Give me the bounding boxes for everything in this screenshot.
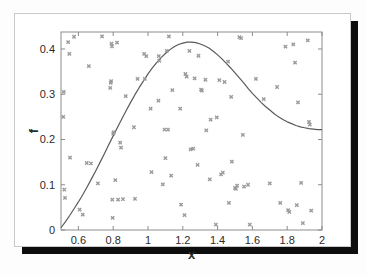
- data-point: [133, 197, 136, 200]
- data-point: [164, 156, 167, 159]
- data-point: [114, 179, 117, 182]
- data-point: [292, 43, 295, 46]
- x-axis-label: x: [188, 247, 196, 262]
- y-tick-label: 0.1: [40, 179, 55, 191]
- data-point: [293, 61, 296, 64]
- data-point: [63, 188, 66, 191]
- data-point: [193, 77, 196, 80]
- data-point: [296, 101, 299, 104]
- scatter-plot: 0.60.811.21.41.61.82 00.10.20.30.4 x f: [0, 0, 367, 275]
- data-point: [171, 89, 174, 92]
- x-tick-label: 0.8: [106, 234, 121, 246]
- data-point: [109, 86, 112, 89]
- data-points: [62, 35, 313, 227]
- data-point: [275, 85, 278, 88]
- data-point: [205, 129, 208, 132]
- x-tick-label: 1.8: [280, 234, 295, 246]
- x-tick-label: 1.2: [175, 234, 190, 246]
- data-point: [132, 126, 135, 129]
- data-point: [208, 178, 211, 181]
- data-point: [121, 198, 124, 201]
- data-point: [163, 128, 166, 131]
- data-point: [299, 181, 302, 184]
- data-point: [310, 209, 313, 212]
- data-point: [295, 203, 298, 206]
- data-point: [221, 171, 224, 174]
- data-point: [157, 55, 160, 58]
- data-point: [85, 161, 88, 164]
- data-point: [230, 95, 233, 98]
- y-tick-label: 0: [49, 224, 55, 236]
- data-point: [161, 183, 164, 186]
- data-point: [223, 80, 226, 83]
- data-point: [62, 115, 65, 118]
- data-point: [209, 118, 212, 121]
- y-tick-label: 0.4: [40, 43, 55, 55]
- data-point: [116, 198, 119, 201]
- curve-path: [61, 42, 322, 228]
- data-point: [227, 201, 230, 204]
- data-point: [306, 39, 309, 42]
- data-point: [119, 146, 122, 149]
- data-point: [111, 198, 114, 201]
- data-point: [119, 141, 122, 144]
- envelope-curve: [61, 42, 322, 228]
- data-point: [63, 196, 66, 199]
- data-point: [149, 107, 152, 110]
- data-point: [124, 94, 127, 97]
- data-point: [279, 201, 282, 204]
- x-tick-label: 1.4: [210, 234, 225, 246]
- figure-root: 0.60.811.21.41.61.82 00.10.20.30.4 x f: [0, 0, 367, 275]
- x-axis-ticks: 0.60.811.21.41.61.82: [71, 32, 325, 246]
- data-point: [115, 41, 118, 44]
- x-tick-label: 0.6: [71, 234, 86, 246]
- plot-frame: [61, 32, 322, 230]
- data-point: [96, 182, 99, 185]
- data-point: [68, 156, 71, 159]
- data-point: [241, 133, 244, 136]
- data-point: [197, 54, 200, 57]
- data-point: [284, 45, 287, 48]
- data-point: [188, 49, 191, 52]
- data-point: [183, 213, 186, 216]
- data-point: [204, 78, 207, 81]
- data-point: [226, 60, 229, 63]
- data-point: [196, 163, 199, 166]
- data-point: [72, 35, 75, 38]
- data-point: [87, 65, 90, 68]
- data-point: [89, 162, 92, 165]
- data-point: [136, 77, 139, 80]
- x-tick-label: 1: [145, 234, 151, 246]
- chart-canvas: 0.60.811.21.41.61.82 00.10.20.30.4 x f: [0, 0, 367, 275]
- data-point: [246, 183, 249, 186]
- y-tick-label: 0.2: [40, 133, 55, 145]
- data-point: [268, 182, 271, 185]
- data-point: [157, 99, 160, 102]
- data-point: [169, 174, 172, 177]
- data-point: [66, 41, 69, 44]
- data-point: [248, 223, 251, 226]
- y-axis-label: f: [26, 128, 41, 133]
- data-point: [218, 79, 221, 82]
- data-point: [214, 223, 217, 226]
- data-point: [215, 116, 218, 119]
- data-point: [262, 98, 265, 101]
- data-point: [62, 90, 65, 93]
- data-point: [111, 216, 114, 219]
- data-point: [230, 160, 233, 163]
- y-axis-ticks: 00.10.20.30.4: [40, 43, 322, 236]
- y-tick-label: 0.3: [40, 88, 55, 100]
- x-tick-label: 1.6: [245, 234, 260, 246]
- data-point: [81, 213, 84, 216]
- data-point: [110, 45, 113, 48]
- data-point: [179, 107, 182, 110]
- data-point: [167, 35, 170, 38]
- data-point: [179, 203, 182, 206]
- data-point: [242, 185, 245, 188]
- data-point: [150, 170, 153, 173]
- data-point: [100, 35, 103, 38]
- data-point: [68, 52, 71, 55]
- data-point: [254, 77, 257, 80]
- data-point: [166, 128, 169, 131]
- data-point: [301, 222, 304, 225]
